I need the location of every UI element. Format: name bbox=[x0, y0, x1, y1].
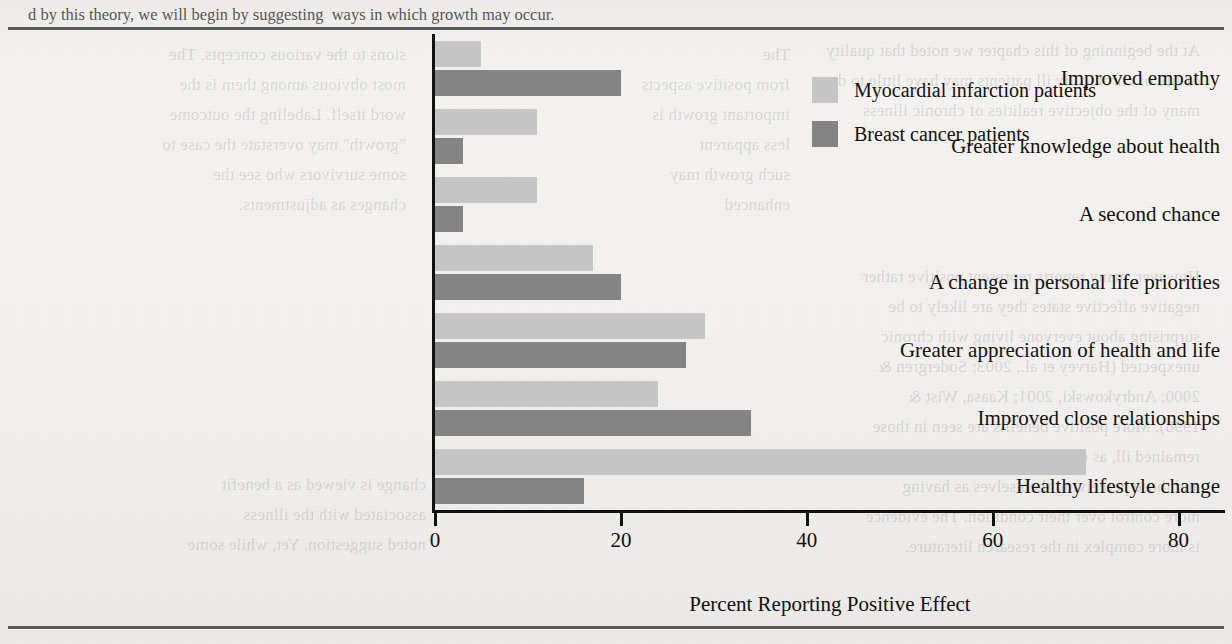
bar-mi-2 bbox=[435, 177, 537, 203]
bar-mi-1 bbox=[435, 109, 537, 135]
x-axis-line bbox=[432, 510, 1225, 513]
x-tick-0 bbox=[434, 513, 437, 526]
bar-mi-4 bbox=[435, 313, 705, 339]
x-tick-60 bbox=[992, 513, 995, 526]
x-tick-label-40: 40 bbox=[796, 528, 817, 553]
bar-mi-5 bbox=[435, 381, 658, 407]
legend-swatch-icon-dark bbox=[812, 121, 838, 147]
legend-item-myocardial-infarction: Myocardial infarction patients bbox=[812, 68, 1096, 112]
bar-bc-5 bbox=[435, 410, 751, 436]
chart-legend: Myocardial infarction patients Breast ca… bbox=[812, 68, 1096, 156]
x-tick-label-60: 60 bbox=[982, 528, 1003, 553]
x-tick-label-20: 20 bbox=[610, 528, 631, 553]
x-tick-80 bbox=[1178, 513, 1181, 526]
bar-bc-0 bbox=[435, 70, 621, 96]
figure-rule-bottom bbox=[8, 626, 1224, 629]
bar-bc-4 bbox=[435, 342, 686, 368]
x-tick-40 bbox=[806, 513, 809, 526]
legend-label-0: Myocardial infarction patients bbox=[854, 79, 1096, 102]
bar-bc-1 bbox=[435, 138, 463, 164]
legend-swatch-icon-light bbox=[812, 77, 838, 103]
page-top-line: d by this theory, we will begin by sugge… bbox=[28, 0, 1208, 31]
bar-chart-figure: Improved empathy Greater knowledge about… bbox=[0, 30, 1232, 626]
bar-bc-3 bbox=[435, 274, 621, 300]
x-tick-label-0: 0 bbox=[430, 528, 441, 553]
y-axis-line bbox=[432, 34, 435, 510]
bar-bc-6 bbox=[435, 478, 584, 504]
scanned-page: d by this theory, we will begin by sugge… bbox=[0, 0, 1232, 644]
bar-mi-0 bbox=[435, 41, 481, 67]
x-tick-20 bbox=[620, 513, 623, 526]
legend-item-breast-cancer: Breast cancer patients bbox=[812, 112, 1096, 156]
bar-mi-3 bbox=[435, 245, 593, 271]
bar-mi-6 bbox=[435, 449, 1086, 475]
x-axis-title: Percent Reporting Positive Effect bbox=[435, 592, 1225, 617]
legend-label-1: Breast cancer patients bbox=[854, 123, 1029, 146]
x-tick-label-80: 80 bbox=[1168, 528, 1189, 553]
bar-bc-2 bbox=[435, 206, 463, 232]
